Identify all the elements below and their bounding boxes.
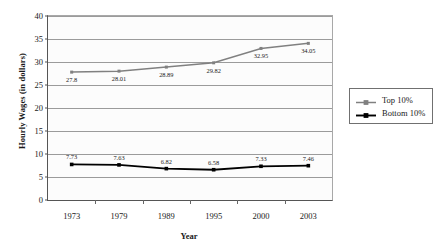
legend-marker-icon	[355, 94, 377, 105]
x-axis-title: Year	[47, 231, 331, 241]
legend-label: Top 10%	[382, 95, 413, 105]
series-line	[72, 43, 309, 72]
data-point-label: 7.63	[113, 154, 124, 161]
data-point-label: 32.95	[254, 52, 268, 59]
x-tick-mark	[95, 200, 96, 204]
data-point-marker	[70, 163, 74, 167]
x-tick-label: 1979	[111, 211, 128, 221]
data-point-marker	[70, 71, 73, 74]
x-tick-label: 1989	[158, 211, 175, 221]
data-point-label: 27.8	[66, 76, 77, 83]
data-point-marker	[307, 164, 311, 168]
y-tick-label: 10	[35, 149, 44, 159]
y-tick-label: 35	[35, 34, 44, 44]
x-tick-label: 2003	[300, 211, 317, 221]
y-axis-title: Hourly Wages (in dollars)	[17, 11, 27, 191]
y-tick-label: 15	[35, 126, 44, 136]
data-point-label: 29.82	[206, 67, 220, 74]
y-tick-label: 40	[35, 11, 44, 21]
plot-area: 0510152025303540 19731979198919952000200…	[47, 15, 333, 201]
data-point-marker	[212, 168, 216, 172]
legend-label: Bottom 10%	[382, 108, 425, 118]
data-point-marker	[259, 164, 263, 168]
data-point-label: 34.05	[301, 47, 315, 54]
x-tick-mark	[285, 200, 286, 204]
data-point-marker	[307, 42, 310, 45]
data-point-label: 6.82	[161, 158, 172, 165]
y-tick-label: 0	[39, 195, 43, 205]
x-tick-mark	[237, 200, 238, 204]
x-tick-label: 2000	[253, 211, 270, 221]
legend-marker-icon	[355, 107, 377, 118]
data-point-marker	[260, 47, 263, 50]
series-plot	[48, 16, 332, 200]
legend-item[interactable]: Top 10%	[355, 93, 425, 106]
data-point-marker	[165, 167, 169, 171]
y-tick-label: 20	[35, 103, 44, 113]
data-point-label: 28.01	[112, 75, 126, 82]
y-tick-label: 30	[35, 57, 44, 67]
legend-item[interactable]: Bottom 10%	[355, 106, 425, 119]
data-point-marker	[212, 61, 215, 64]
data-point-label: 7.33	[255, 155, 266, 162]
data-point-label: 7.73	[66, 153, 77, 160]
series-line	[72, 164, 309, 169]
chart-container: Hourly Wages (in dollars) 05101520253035…	[0, 0, 441, 251]
data-point-label: 28.89	[159, 71, 173, 78]
y-tick-label: 25	[35, 80, 44, 90]
data-point-marker	[117, 163, 121, 167]
data-point-marker	[118, 70, 121, 73]
x-tick-mark	[143, 200, 144, 204]
chart-legend: Top 10%Bottom 10%	[349, 88, 433, 124]
x-tick-label: 1973	[63, 211, 80, 221]
data-point-label: 6.58	[208, 159, 219, 166]
y-tick-label: 5	[39, 172, 43, 182]
x-tick-label: 1995	[205, 211, 222, 221]
data-point-marker	[165, 66, 168, 69]
data-point-label: 7.46	[303, 155, 314, 162]
x-tick-mark	[190, 200, 191, 204]
